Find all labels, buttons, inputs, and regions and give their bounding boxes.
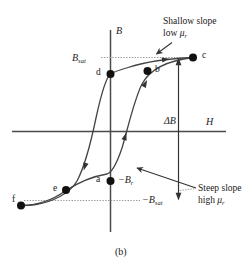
steep-slope-dotted-connector	[180, 189, 196, 191]
figure-caption: (b)	[115, 246, 127, 257]
point-label-a: a	[96, 174, 100, 185]
label-b-remanence-negative-main: −B	[118, 174, 131, 185]
point-marker-c	[189, 54, 197, 62]
annotation-steep-slope-line2: high μr	[198, 194, 242, 206]
annotation-shallow-slope-line2: low μr	[163, 27, 217, 39]
point-marker-d	[107, 70, 115, 78]
annotation-shallow-slope: Shallow slope low μr	[163, 15, 217, 39]
point-label-c: c	[202, 50, 206, 61]
delta-b-arrowhead-down	[176, 193, 182, 201]
hysteresis-loop-figure: B H Bsat −Br −Bsat ΔB a b c d e f Shallo…	[0, 0, 252, 271]
label-delta-b: ΔB	[164, 115, 176, 126]
point-marker-b	[144, 67, 152, 75]
annotation-shallow-slope-prefix: low	[163, 28, 180, 38]
axis-label-b: B	[116, 25, 122, 36]
point-label-e: e	[53, 183, 57, 194]
annotation-steep-slope-prefix: high	[198, 195, 217, 205]
point-label-b: b	[155, 64, 160, 75]
annotation-shallow-slope-line1: Shallow slope	[163, 15, 217, 27]
label-b-remanence-negative-sub: r	[131, 179, 134, 186]
point-marker-a	[107, 177, 115, 185]
arrow-ascending-lower	[121, 132, 128, 141]
hysteresis-loop-svg	[0, 0, 252, 271]
annotation-steep-slope-line1: Steep slope	[198, 182, 242, 194]
label-b-sat-negative-main: −B	[142, 194, 155, 205]
mu-subscript-shallow: r	[184, 32, 187, 39]
label-b-sat-positive: Bsat	[72, 52, 86, 63]
annotation-steep-slope: Steep slope high μr	[198, 182, 242, 206]
label-b-sat-negative-sub: sat	[155, 199, 163, 206]
label-b-remanence-negative: −Br	[118, 174, 133, 185]
point-marker-e	[62, 186, 70, 194]
steep-slope-leader	[137, 168, 196, 188]
axis-label-h: H	[206, 116, 213, 127]
point-label-f: f	[12, 194, 15, 205]
point-label-d: d	[96, 67, 101, 78]
mu-subscript-steep: r	[222, 199, 225, 206]
point-marker-f	[17, 202, 25, 210]
label-b-sat-negative: −Bsat	[142, 194, 162, 205]
shallow-slope-leader	[157, 43, 173, 55]
label-b-sat-positive-sub: sat	[78, 57, 86, 64]
delta-b-measure	[176, 58, 182, 201]
